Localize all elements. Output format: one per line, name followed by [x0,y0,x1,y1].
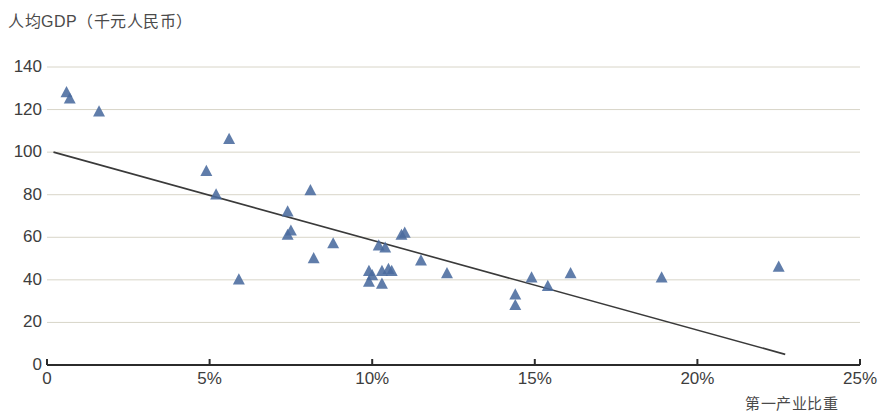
data-point-marker [509,299,521,310]
x-axis-tick-label: 15% [518,369,552,389]
data-point-marker [376,278,388,289]
data-points [61,86,785,310]
data-point-marker [773,261,785,272]
trendline-segment [54,152,786,354]
data-point-marker [542,280,554,291]
x-axis-tick-label: 0 [42,369,51,389]
data-point-marker [304,184,316,195]
x-axis-tick-label: 25% [843,369,877,389]
data-point-marker [93,105,105,116]
data-point-marker [282,205,294,216]
data-point-marker [509,288,521,299]
data-point-marker [565,267,577,278]
data-point-marker [233,273,245,284]
data-point-marker [210,188,222,199]
x-axis-tick-label: 20% [680,369,714,389]
data-point-marker [526,271,538,282]
scatter-chart: 人均GDP（千元人民币） 020406080100120140 05%10%15… [0,0,887,419]
data-point-marker [656,271,668,282]
data-point-marker [415,254,427,265]
data-point-marker [308,252,320,263]
gridlines [47,67,860,322]
data-point-marker [200,165,212,176]
data-point-marker [327,237,339,248]
trendline [54,152,786,354]
x-axis-tick-label: 5% [197,369,222,389]
data-point-marker [223,133,235,144]
x-axis-tick-label: 10% [355,369,389,389]
data-point-marker [441,267,453,278]
x-axis-title: 第一产业比重 [745,392,838,413]
axis-lines [47,359,860,365]
plot-area [0,0,887,419]
